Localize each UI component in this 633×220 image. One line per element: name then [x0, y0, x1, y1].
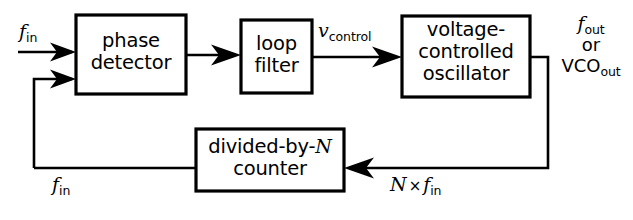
label-vcontrol-subscript: control — [329, 29, 372, 44]
label-vco-line3: oscillator — [402, 63, 530, 85]
label-divider-n-symbol: N — [315, 135, 331, 157]
wire-loop-filter-to-vco — [312, 47, 402, 68]
wire-input-fin — [18, 43, 76, 62]
label-signal-feedback-fin: fin — [52, 174, 70, 195]
label-divider: divided-by-N counter — [196, 136, 344, 180]
label-divider-line2: counter — [196, 158, 344, 180]
pll-block-diagram: phase detector loop filter voltage- cont… — [0, 0, 633, 220]
label-phase-detector-line1: phase — [76, 30, 186, 52]
label-output-vcoout: VCOout — [552, 56, 630, 76]
label-vco-line2: controlled — [402, 41, 530, 63]
label-signal-input-fin: fin — [19, 21, 37, 42]
label-output-fout-subscript: out — [584, 22, 604, 37]
label-feedback-fin-symbol: f — [52, 173, 59, 195]
label-output-or: or — [552, 35, 630, 55]
multiply-icon: × — [407, 177, 424, 195]
label-vco-line1: voltage- — [402, 19, 530, 41]
label-output-fout: fout — [552, 13, 630, 34]
label-input-fin-subscript: in — [26, 30, 37, 45]
label-feedback-fin-subscript: in — [59, 183, 70, 198]
label-phase-detector: phase detector — [76, 30, 186, 74]
label-loop-filter-line2: filter — [238, 55, 315, 77]
label-output-vcoout-symbol: VCO — [561, 55, 600, 76]
label-signal-vcontrol: vcontrol — [318, 20, 371, 41]
label-phase-detector-line2: detector — [76, 52, 186, 74]
label-n-times-fin-subscript: in — [430, 183, 441, 198]
label-divider-line1-text: divided-by-N — [208, 135, 331, 158]
label-divider-line1: divided-by-N — [196, 136, 344, 158]
wire-feedback-to-phase-detector — [34, 70, 76, 169]
label-input-fin-symbol: f — [19, 20, 26, 42]
wire-phase-detector-to-loop-filter — [186, 45, 241, 66]
label-signal-output: fout or VCOout — [552, 13, 630, 77]
label-signal-n-times-fin: N×fin — [390, 174, 441, 195]
label-output-vcoout-subscript: out — [600, 64, 620, 79]
label-loop-filter: loop filter — [238, 33, 315, 77]
label-n-times-fin-prefix: N — [390, 173, 407, 195]
label-vco: voltage- controlled oscillator — [402, 19, 530, 84]
label-loop-filter-line1: loop — [238, 33, 315, 55]
label-vcontrol-symbol: v — [318, 19, 329, 41]
